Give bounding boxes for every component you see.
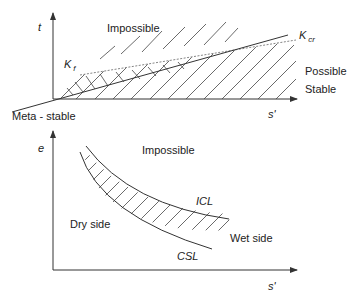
t-axis-label: t [38,21,41,33]
kcr-label: Kcr [299,29,315,43]
icl-curve [86,146,229,219]
kf-main: K [64,58,71,70]
impossible-label-bottom: Impossible [142,144,195,156]
kcr-main: K [299,29,306,41]
s-prime-label-bottom: s' [268,280,276,292]
csl-curve [80,152,212,249]
csl-label: CSL [177,250,198,262]
possible-region-hatch [60,39,296,99]
dry-side-label: Dry side [70,218,110,230]
s-prime-label-top: s' [268,108,276,120]
stable-label: Stable [305,83,336,95]
wet-side-label: Wet side [230,232,273,244]
kcr-subscript: cr [308,35,315,44]
possible-label: Possible [305,65,347,77]
kf-subscript: f [73,64,75,73]
kf-label: Kf [64,58,76,72]
e-axis-label: e [38,142,44,154]
impossible-label-top: Impossible [107,22,160,34]
icl-label: ICL [196,195,213,207]
metastable-label: Meta - stable [12,110,76,122]
